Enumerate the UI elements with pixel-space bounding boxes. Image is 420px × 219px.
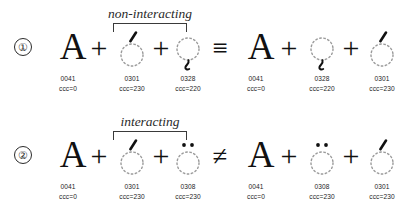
dotted-circle-diaeresis-icon: [168, 130, 208, 180]
dotted-circle-acute-icon: [362, 130, 402, 180]
ccc-value: ccc=230: [350, 192, 414, 202]
plus-operator-4-row-1: +: [340, 24, 362, 70]
term-combining-acute-right-row-1: [362, 22, 402, 72]
ccc-value: ccc=0: [224, 84, 288, 94]
caption-left-term-1-row-1: 0041 ccc=0: [36, 74, 100, 93]
figure-row-2: ② interacting A + + ≠ A: [0, 110, 420, 214]
term-combining-diaeresis-right-row-2: [302, 130, 342, 180]
codepoint-value: 0301: [350, 74, 414, 84]
dotted-circle-acute-icon: [362, 22, 402, 72]
plus-operator-1-row-2: +: [88, 132, 110, 178]
dotted-circle-ogonek-icon: [168, 22, 208, 72]
term-combining-acute-right-row-2: [362, 130, 402, 180]
relation-identical-row-1: ≡: [205, 24, 235, 70]
ccc-value: ccc=230: [156, 192, 220, 202]
caption-right-term-1-row-1: 0041 ccc=0: [224, 74, 288, 93]
term-combining-diaeresis-left-row-2: [168, 130, 208, 180]
term-combining-ogonek-left-row-1: [168, 22, 208, 72]
caption-right-term-3-row-2: 0301 ccc=230: [350, 182, 414, 201]
codepoint-value: 0328: [156, 74, 220, 84]
codepoint-value: 0308: [290, 182, 354, 192]
codepoint-value: 0041: [224, 182, 288, 192]
term-combining-acute-left-row-2: [112, 130, 152, 180]
caption-left-term-1-row-2: 0041 ccc=0: [36, 182, 100, 201]
row-number-1: ①: [14, 38, 32, 56]
codepoint-value: 0041: [224, 74, 288, 84]
plus-operator-3-row-2: +: [278, 132, 300, 178]
plus-operator-1-row-1: +: [88, 24, 110, 70]
caption-right-term-2-row-1: 0328 ccc=220: [290, 74, 354, 93]
term-combining-acute-left-row-1: [112, 22, 152, 72]
caption-left-term-3-row-1: 0328 ccc=220: [156, 74, 220, 93]
codepoint-value: 0328: [290, 74, 354, 84]
ccc-value: ccc=230: [100, 84, 164, 94]
ccc-value: ccc=0: [36, 192, 100, 202]
ccc-value: ccc=230: [290, 192, 354, 202]
caption-right-term-3-row-1: 0301 ccc=230: [350, 74, 414, 93]
plus-operator-4-row-2: +: [340, 132, 362, 178]
term-combining-ogonek-right-row-1: [302, 22, 342, 72]
row-number-2: ②: [14, 146, 32, 164]
ccc-value: ccc=220: [290, 84, 354, 94]
caption-left-term-2-row-1: 0301 ccc=230: [100, 74, 164, 93]
bracket-label-non-interacting: non-interacting: [104, 6, 196, 21]
relation-not-equal-row-2: ≠: [205, 132, 235, 178]
caption-right-term-2-row-2: 0308 ccc=230: [290, 182, 354, 201]
ccc-value: ccc=230: [100, 192, 164, 202]
ccc-value: ccc=220: [156, 84, 220, 94]
codepoint-value: 0301: [100, 74, 164, 84]
codepoint-value: 0308: [156, 182, 220, 192]
ccc-value: ccc=230: [350, 84, 414, 94]
base-letter-glyph: A: [248, 134, 275, 175]
caption-left-term-2-row-2: 0301 ccc=230: [100, 182, 164, 201]
ccc-value: ccc=0: [36, 84, 100, 94]
base-letter-glyph: A: [60, 134, 87, 175]
ccc-value: ccc=0: [224, 192, 288, 202]
codepoint-value: 0041: [36, 182, 100, 192]
codepoint-value: 0301: [100, 182, 164, 192]
codepoint-value: 0041: [36, 74, 100, 84]
codepoint-value: 0301: [350, 182, 414, 192]
caption-right-term-1-row-2: 0041 ccc=0: [224, 182, 288, 201]
plus-operator-3-row-1: +: [278, 24, 300, 70]
dotted-circle-ogonek-icon: [302, 22, 342, 72]
base-letter-glyph: A: [248, 26, 275, 67]
dotted-circle-diaeresis-icon: [302, 130, 342, 180]
bracket-label-interacting: interacting: [110, 114, 190, 129]
dotted-circle-acute-icon: [112, 130, 152, 180]
base-letter-glyph: A: [60, 26, 87, 67]
figure-row-1: ① non-interacting A + + ≡ A: [0, 2, 420, 106]
caption-left-term-3-row-2: 0308 ccc=230: [156, 182, 220, 201]
combining-class-figure: ① non-interacting A + + ≡ A: [0, 0, 420, 219]
dotted-circle-acute-icon: [112, 22, 152, 72]
